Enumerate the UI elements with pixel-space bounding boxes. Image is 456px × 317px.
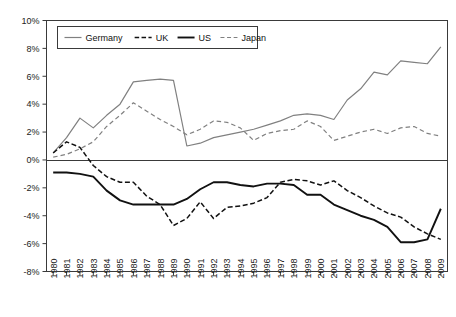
y-tick-label: 4% <box>26 99 39 109</box>
x-tick-label: 1991 <box>196 258 206 278</box>
legend-label-us: US <box>199 33 212 43</box>
chart-container: 10%8%6%4%2%0%-2%-4%-6%-8% 19801981198219… <box>0 0 456 317</box>
y-tick-label: -8% <box>23 267 39 277</box>
x-tick-label: 1996 <box>262 258 272 278</box>
series-line-us <box>53 172 441 242</box>
x-tick-label: 1997 <box>276 258 286 278</box>
x-tick-label: 2002 <box>343 258 353 278</box>
legend-label-uk: UK <box>156 33 169 43</box>
y-axis: 10%8%6%4%2%0%-2%-4%-6%-8% <box>21 16 46 277</box>
x-tick-label: 1990 <box>182 258 192 278</box>
x-tick-label: 1985 <box>115 258 125 278</box>
y-tick-label: 10% <box>21 16 39 26</box>
x-tick-label: 2008 <box>423 258 433 278</box>
x-tick-label: 2001 <box>329 258 339 278</box>
x-tick-label: 1983 <box>89 258 99 278</box>
x-tick-label: 1989 <box>169 258 179 278</box>
x-tick-label: 1992 <box>209 258 219 278</box>
y-tick-label: -6% <box>23 239 39 249</box>
chart-legend: GermanyUKUSJapan <box>58 27 266 49</box>
line-chart: 10%8%6%4%2%0%-2%-4%-6%-8% 19801981198219… <box>0 0 456 317</box>
x-tick-label: 1998 <box>289 258 299 278</box>
x-tick-label: 1980 <box>49 258 59 278</box>
x-tick-label: 2009 <box>436 258 446 278</box>
legend-label-japan: Japan <box>241 33 266 43</box>
x-tick-label: 1994 <box>236 258 246 278</box>
plot-area-frame <box>47 21 448 272</box>
x-tick-label: 1987 <box>142 258 152 278</box>
x-tick-label: 1981 <box>62 258 72 278</box>
x-tick-label: 1984 <box>102 258 112 278</box>
x-tick-label: 2000 <box>316 258 326 278</box>
series-line-germany <box>53 47 441 153</box>
y-tick-label: 0% <box>26 155 39 165</box>
y-tick-label: 8% <box>26 44 39 54</box>
legend-label-germany: Germany <box>86 33 124 43</box>
x-tick-label: 1999 <box>303 258 313 278</box>
y-tick-label: -4% <box>23 211 39 221</box>
y-tick-label: 6% <box>26 72 39 82</box>
x-tick-label: 2007 <box>409 258 419 278</box>
x-tick-label: 1993 <box>222 258 232 278</box>
x-tick-label: 1982 <box>75 258 85 278</box>
x-tick-label: 2005 <box>383 258 393 278</box>
y-tick-label: -2% <box>23 183 39 193</box>
x-tick-label: 1995 <box>249 258 259 278</box>
x-tick-label: 2006 <box>396 258 406 278</box>
x-tick-label: 2004 <box>369 258 379 278</box>
y-tick-label: 2% <box>26 127 39 137</box>
x-tick-label: 1986 <box>129 258 139 278</box>
x-tick-label: 2003 <box>356 258 366 278</box>
x-tick-label: 1988 <box>156 258 166 278</box>
series-lines <box>53 47 441 242</box>
x-axis: 1980198119821983198419851986198719881989… <box>49 258 447 278</box>
